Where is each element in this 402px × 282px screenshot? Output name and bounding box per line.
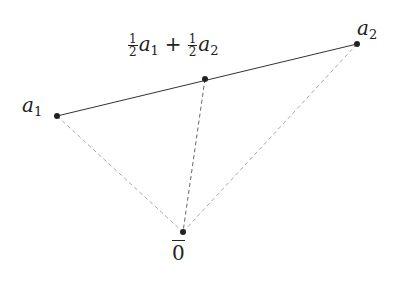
point-a2 [354,41,360,47]
fraction-2: 12 [188,33,198,58]
dashed-line-a2-origin [183,44,357,232]
label-a2-sub: 2 [369,27,377,42]
point-midpoint [202,76,208,82]
label-a2: a2 [357,18,377,41]
point-origin [180,229,186,235]
mid-sub1: 1 [151,43,159,58]
fraction-1: 12 [128,33,138,58]
dashed-line-a1-origin [57,116,183,232]
mid-var1: a [139,32,151,56]
label-origin-zero: 0 [172,240,185,263]
mid-var2: a [198,32,210,56]
label-midpoint: 12a1+12a2 [128,33,218,58]
mid-sub2: 2 [210,43,218,58]
fraction-2-den: 2 [188,46,198,58]
label-origin: 0 [172,240,185,263]
label-a2-var: a [357,16,369,40]
point-a1 [54,113,60,119]
label-a1: a1 [22,95,42,118]
label-a1-var: a [22,93,34,117]
plus-operator: + [165,32,182,56]
fraction-1-den: 2 [128,46,138,58]
label-a1-sub: 1 [34,104,42,119]
dashed-line-mid-origin [183,79,205,232]
